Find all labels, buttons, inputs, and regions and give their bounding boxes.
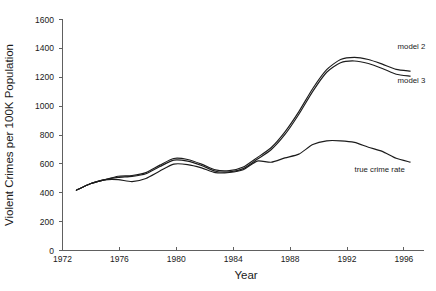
y-tick-label: 1400 [35,43,54,53]
x-tick-label: 1992 [338,254,357,264]
x-axis-title: Year [234,269,257,281]
line-chart: 1600 1400 1200 1000 800 600 400 200 0 19… [0,0,436,291]
y-tick-label: 1000 [35,101,54,111]
y-axis-tick-labels: 1600 1400 1200 1000 800 600 400 200 0 [35,15,54,256]
x-tick-label: 1988 [281,254,300,264]
x-tick-label: 1980 [167,254,186,264]
y-axis-ticks [59,20,63,251]
series-label-true-crime-rate: true crime rate [355,165,405,174]
series-label-model-3: model 3 [398,76,426,85]
x-tick-label: 1996 [394,254,413,264]
series-labels-group: model 2model 3true crime rate [355,42,426,173]
x-tick-label: 1976 [110,254,129,264]
x-tick-label: 1984 [224,254,243,264]
series-label-model-2: model 2 [398,42,426,51]
y-tick-label: 1200 [35,72,54,82]
chart-page: 1600 1400 1200 1000 800 600 400 200 0 19… [0,0,436,291]
y-tick-label: 1600 [35,15,54,25]
y-tick-label: 200 [40,217,54,227]
x-tick-label: 1972 [53,254,72,264]
y-tick-label: 600 [40,159,54,169]
y-tick-label: 800 [40,130,54,140]
chart-axes [63,19,425,251]
x-axis-tick-labels: 1972 1976 1980 1984 1988 1992 1996 [53,254,414,264]
x-axis-ticks [63,247,404,251]
y-tick-label: 400 [40,188,54,198]
y-axis-title: Violent Crimes per 100K Population [3,44,15,226]
